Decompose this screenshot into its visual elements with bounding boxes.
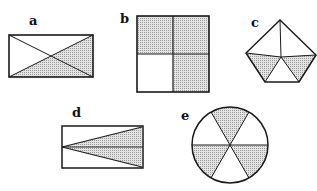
figure-a-label: a (29, 14, 37, 27)
figure-b (137, 16, 209, 92)
figure-d (62, 126, 143, 168)
fraction-figures (0, 0, 317, 191)
figure-d-label: d (72, 106, 81, 119)
figure-c-label: c (251, 16, 259, 29)
figure-e (192, 107, 268, 183)
figure-a (9, 35, 93, 77)
figure-b-label: b (120, 12, 129, 25)
figure-e-label: e (181, 109, 189, 122)
